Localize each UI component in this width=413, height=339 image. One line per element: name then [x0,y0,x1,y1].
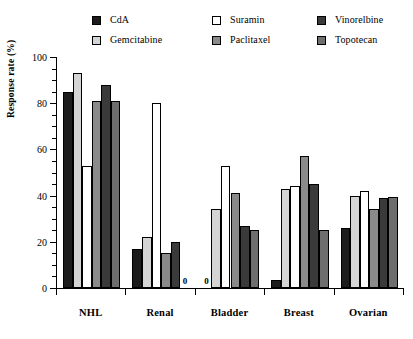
x-axis-group-label: Ovarian [349,307,388,318]
x-axis-group-tick [403,289,404,295]
legend-item-vinorelbine: Vinorelbine [317,10,413,30]
zero-value-label: 0 [202,277,212,286]
legend-item-gemcitabine: Gemcitabine [92,30,202,50]
bar [319,230,329,288]
y-tick-major [50,149,57,150]
bar [231,193,241,288]
y-tick-major [50,103,57,104]
x-axis-group-tick [56,289,57,295]
y-tick-label: 0 [17,288,47,289]
legend-item-cda: CdA [92,10,202,30]
bar [171,242,181,288]
bar [300,156,310,288]
legend-item-topotecan: Topotecan [317,30,413,50]
y-tick-label: 100 [17,57,47,58]
legend-column-3: Vinorelbine Topotecan [317,10,413,50]
bar [240,226,250,288]
bar [341,228,351,288]
bar [369,209,379,288]
zero-value-label: 0 [180,277,190,286]
x-axis-group-label: Bladder [211,307,249,318]
legend-label-vinorelbine: Vinorelbine [335,10,383,30]
legend-swatch-topotecan-icon [317,36,326,45]
x-axis-labels: NHLRenalBladderBreastOvarian [56,289,404,339]
legend-label-topotecan: Topotecan [335,30,377,50]
bar [360,191,370,288]
legend-label-gemcitabine: Gemcitabine [110,30,162,50]
x-axis-group-label: NHL [79,307,102,318]
bar [309,184,319,288]
bar [161,253,171,288]
x-axis-group-label: Renal [146,307,173,318]
x-axis-group-tick [264,289,265,295]
y-tick-major [50,242,57,243]
bar [379,198,389,288]
x-axis-group-tick [125,289,126,295]
y-tick-major [50,57,57,58]
legend-swatch-cda-icon [92,16,101,25]
bar [281,189,291,288]
y-tick-major [50,196,57,197]
legend-column-1: CdA Gemcitabine [92,10,202,50]
bar [152,103,162,288]
y-tick-label: 20 [17,241,47,242]
legend-label-suramin: Suramin [230,10,265,30]
plot-area: 020406080100 00 [56,57,404,289]
y-tick-label: 60 [17,149,47,150]
bar-chart: CdA Gemcitabine Suramin Paclitaxel Vinor… [0,0,413,339]
legend-swatch-paclitaxel-icon [212,36,221,45]
bar [101,85,111,288]
x-axis-group-tick [334,289,335,295]
bar [111,101,121,288]
legend-swatch-suramin-icon [212,16,221,25]
bar [73,73,83,288]
chart-legend: CdA Gemcitabine Suramin Paclitaxel Vinor… [92,10,410,50]
bar [132,249,142,288]
bar [388,197,398,288]
legend-item-paclitaxel: Paclitaxel [212,30,322,50]
y-axis-title: Response rate (%) [6,40,16,118]
bar [350,196,360,288]
bar [290,186,300,288]
y-tick-label: 40 [17,195,47,196]
legend-label-paclitaxel: Paclitaxel [230,30,270,50]
bar [142,237,152,288]
bar [221,166,231,288]
bar [211,209,221,288]
bar [92,101,102,288]
legend-swatch-vinorelbine-icon [317,16,326,25]
legend-swatch-gemcitabine-icon [92,36,101,45]
y-tick-label: 80 [17,103,47,104]
bar [63,92,73,288]
bar [250,230,260,288]
x-axis-group-tick [195,289,196,295]
legend-label-cda: CdA [110,10,129,30]
bar [82,166,92,288]
x-axis-group-label: Breast [284,307,314,318]
legend-column-2: Suramin Paclitaxel [212,10,322,50]
bars-layer: 00 [57,57,404,288]
legend-item-suramin: Suramin [212,10,322,30]
bar [271,280,281,288]
